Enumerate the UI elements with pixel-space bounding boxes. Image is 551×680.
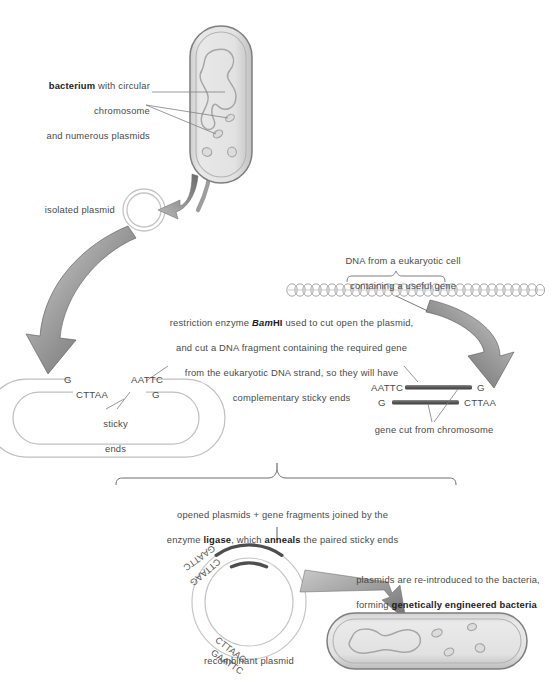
reintroduction-text: plasmids are re-introduced to the bacter… xyxy=(345,562,550,624)
curved-arrow-icon xyxy=(26,226,136,374)
restriction-line3: from the eukaryotic DNA strand, so they … xyxy=(185,367,398,378)
curly-bracket-icon xyxy=(116,463,456,485)
eukaryotic-dna-label: DNA from a eukaryotic cell containing a … xyxy=(330,243,465,305)
restriction-line4: complementary sticky ends xyxy=(233,392,351,403)
plasmid-seq-right-top: AATTC xyxy=(131,374,163,385)
ligase-line2: enzyme ligase, which anneals the paired … xyxy=(167,534,399,545)
isolated-plasmid-label: isolated plasmid xyxy=(20,204,115,216)
bacterium-label-line1: bacterium with circular xyxy=(49,80,150,91)
restriction-line1: restriction enzyme BamHI used to cut ope… xyxy=(170,317,414,328)
anneals-keyword: anneals xyxy=(265,534,301,545)
leader-lines-gene-cut xyxy=(428,389,458,422)
plasmid-seq-left-bottom: CTTAA xyxy=(76,389,108,400)
fragment-seq-right-top: G xyxy=(477,382,485,393)
bacterium-capsule-icon xyxy=(190,26,252,210)
plasmid-seq-left-top: G xyxy=(64,374,72,385)
restriction-line2: and cut a DNA fragment containing the re… xyxy=(176,342,407,353)
inserted-gene-inner-arc xyxy=(232,563,267,567)
eukaryotic-dna-line1: DNA from a eukaryotic cell xyxy=(345,255,460,266)
engineered-bacteria-keyword: genetically engineered bacteria xyxy=(392,599,537,610)
bamhi-enzyme-name: Bam xyxy=(252,317,273,328)
eukaryotic-dna-line2: containing a useful gene xyxy=(350,280,456,291)
fragment-seq-left-bottom: G xyxy=(378,397,386,408)
ligase-text: opened plasmids + gene fragments joined … xyxy=(137,497,417,559)
bacterium-label-bold: bacterium xyxy=(49,80,96,91)
bacterium-label-line2: chromosome xyxy=(94,105,150,116)
sticky-ends-label: sticky ends xyxy=(80,406,140,468)
diagram-canvas: bacterium with circular chromosome and n… xyxy=(0,0,551,680)
ligase-keyword: ligase xyxy=(204,534,232,545)
bacterium-label-line3: and numerous plasmids xyxy=(47,130,150,141)
curved-arrow-icon xyxy=(158,174,198,219)
curved-arrow-icon xyxy=(426,300,514,388)
plasmid-inner-circle xyxy=(205,558,293,646)
plasmid-seq-right-bottom: G xyxy=(152,389,160,400)
gene-cut-label: gene cut from chromosome xyxy=(364,424,504,436)
reintroduction-line1: plasmids are re-introduced to the bacter… xyxy=(356,574,540,585)
sticky-ends-line2: ends xyxy=(105,443,126,454)
bacterium-label: bacterium with circular chromosome and n… xyxy=(8,68,150,155)
fragment-seq-left-top: AATTC xyxy=(371,382,403,393)
recombinant-plasmid-label: recombinant plasmid xyxy=(189,655,309,667)
fragment-seq-right-bottom: CTTAA xyxy=(464,397,496,408)
reintroduction-line2: forming genetically engineered bacteria xyxy=(356,599,537,610)
sticky-ends-line1: sticky xyxy=(103,418,128,429)
ligase-line1: opened plasmids + gene fragments joined … xyxy=(177,509,388,520)
